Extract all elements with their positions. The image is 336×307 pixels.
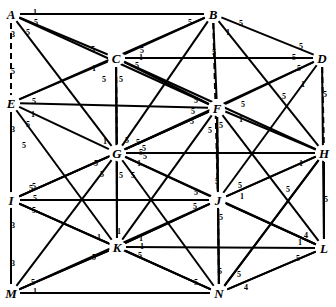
edge-weight-label: 5 — [237, 271, 241, 279]
edge-weight-label: 1 — [117, 228, 121, 236]
edge-weight-label: 5 — [26, 121, 30, 129]
edge-weight-label: 5 — [119, 76, 123, 84]
graph-edge — [122, 21, 208, 145]
edge-weight-label: 5 — [131, 172, 135, 180]
edge-weight-label: 1 — [140, 243, 144, 251]
edge-weight-label: 5 — [238, 182, 242, 190]
edge-weight-label: 1 — [299, 160, 303, 168]
edge-weight-label: 1 — [240, 193, 244, 201]
edge-weight-label: 1 — [103, 138, 107, 146]
node-label-n: N — [214, 287, 223, 300]
edge-weight-label: 5 — [193, 203, 197, 211]
node-label-c: C — [112, 52, 121, 65]
edge-weight-label: 5 — [324, 196, 328, 204]
edge-weight-label: 1 — [139, 235, 143, 243]
node-label-e: E — [7, 97, 16, 110]
edge-weight-label: 5 — [100, 171, 104, 179]
edge-weight-label: 5 — [142, 145, 146, 153]
edge-weight-label: 5 — [219, 214, 223, 222]
edge-weight-label: 5 — [191, 108, 195, 116]
edge-weight-label: 5 — [136, 139, 140, 147]
node-label-b: B — [209, 8, 218, 21]
graph-canvas — [0, 0, 336, 307]
edge-weight-label: 4 — [244, 284, 248, 292]
edge-weight-label: 1 — [33, 288, 37, 296]
edge-weight-label: 5 — [91, 46, 95, 54]
edge-weight-label: 5 — [212, 49, 216, 57]
edge-weight-label: 5 — [215, 178, 219, 186]
edge-weight-label: 3 — [11, 126, 15, 134]
edge-layer — [3, 6, 332, 301]
edge-weight-label: 5 — [188, 19, 192, 27]
edge-weight-label: 5 — [286, 186, 290, 194]
edge-weight-label: 5 — [299, 43, 303, 51]
edge-weight-label: 5 — [190, 118, 194, 126]
graph-figure: 1535555515551155555515513555555155551555… — [0, 0, 336, 307]
edge-weight-label: 5 — [102, 76, 106, 84]
graph-edge — [125, 204, 210, 243]
edge-weight-label: 3 — [11, 260, 15, 268]
edge-weight-label: 5 — [282, 93, 286, 101]
edge-weight-label: 1 — [139, 54, 143, 62]
edge-weight-label: 1 — [31, 111, 35, 119]
edge-weight-label: 1 — [226, 29, 230, 37]
edge-weight-label: 3 — [11, 222, 15, 230]
graph-edge — [16, 110, 111, 240]
edge-weight-label: 5 — [135, 62, 139, 70]
edge-weight-label: 5 — [292, 54, 296, 62]
edge-weight-label: 1 — [137, 160, 141, 168]
edge-weight-label: 5 — [208, 127, 212, 135]
edge-weight-label: 5 — [218, 268, 222, 276]
edge-weight-label: 5 — [297, 65, 301, 73]
node-label-h: H — [319, 147, 329, 160]
edge-weight-label: 5 — [323, 91, 327, 99]
edge-weight-label: 5 — [119, 172, 123, 180]
edge-weight-label: 5 — [34, 19, 38, 27]
edge-weight-label: 5 — [125, 137, 129, 145]
edge-weight-label: 5 — [26, 29, 30, 37]
graph-edge — [116, 67, 117, 144]
edge-weight-label: 1 — [298, 239, 302, 247]
edge-weight-label: 5 — [22, 142, 26, 150]
edge-weight-label: 5 — [239, 20, 243, 28]
edge-weight-label: 5 — [143, 153, 147, 161]
edge-weight-label: 3 — [11, 31, 15, 39]
node-label-j: J — [215, 194, 222, 207]
edge-weight-label: 5 — [32, 207, 36, 215]
edge-weight-label: 5 — [219, 122, 223, 130]
edge-weight-label: 5 — [11, 68, 15, 76]
edge-weight-label: 5 — [194, 97, 198, 105]
node-label-g: G — [112, 147, 121, 160]
edge-weight-label: 5 — [32, 98, 36, 106]
node-label-k: K — [113, 241, 122, 254]
edge-weight-label: 5 — [31, 279, 35, 287]
edge-weight-label: 1 — [301, 81, 305, 89]
node-label-d: D — [317, 52, 326, 65]
node-label-f: F — [213, 102, 222, 115]
graph-edge — [126, 247, 315, 248]
graph-edge — [20, 103, 208, 108]
edge-weight-label: 1 — [97, 234, 101, 242]
edge-weight-label: 1 — [92, 65, 96, 73]
edge-weight-label: 5 — [33, 195, 37, 203]
edge-weight-label: 4 — [304, 232, 308, 240]
edge-weight-label: 5 — [194, 279, 198, 287]
node-label-a: A — [7, 8, 16, 21]
edge-weight-label: 5 — [241, 101, 245, 109]
edge-weight-label: 5 — [94, 160, 98, 168]
node-label-l: L — [320, 242, 328, 255]
edge-weight-label: 5 — [194, 189, 198, 197]
node-label-i: I — [8, 194, 13, 207]
edge-weight-label: 1 — [33, 9, 37, 17]
edge-weight-label: 5 — [32, 183, 36, 191]
node-label-m: M — [5, 287, 17, 300]
edge-weight-label: 1 — [239, 116, 243, 124]
edge-weight-label: 5 — [138, 252, 142, 260]
edge-weight-label: 5 — [296, 255, 300, 263]
edge-weight-label: 5 — [92, 254, 96, 262]
